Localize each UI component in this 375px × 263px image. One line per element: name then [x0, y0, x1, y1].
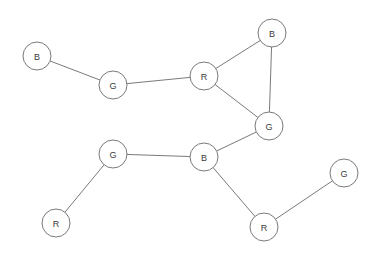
edge-b-top-left-to-g-upper-left: [50, 61, 100, 80]
node-b-top-left[interactable]: B: [23, 42, 51, 70]
node-g-middle-left-label: G: [109, 150, 116, 160]
graph-svg: BGRBGGBRRG: [0, 0, 375, 263]
edge-layer: [50, 40, 332, 219]
edge-r-upper-center-to-g-center-right: [215, 85, 258, 118]
node-layer: BGRBGGBRRG: [23, 19, 358, 241]
node-r-upper-center-label: R: [201, 72, 208, 82]
node-r-bottom-left[interactable]: R: [42, 209, 70, 237]
node-g-upper-left[interactable]: G: [99, 71, 127, 99]
edge-b-middle-center-to-r-bottom-right: [213, 168, 255, 217]
edge-r-bottom-right-to-g-far-right: [276, 181, 333, 219]
node-r-bottom-right-label: R: [261, 223, 268, 233]
node-r-bottom-right[interactable]: R: [250, 213, 278, 241]
edge-r-upper-center-to-b-top-right: [216, 40, 260, 68]
node-g-center-right-label: G: [265, 122, 272, 132]
edge-g-center-right-to-b-middle-center: [217, 132, 257, 151]
node-g-center-right[interactable]: G: [255, 112, 283, 140]
node-g-upper-left-label: G: [109, 81, 116, 91]
edge-g-upper-left-to-r-upper-center: [127, 77, 190, 83]
graph-canvas: BGRBGGBRRG: [0, 0, 375, 263]
node-b-middle-center-label: B: [201, 153, 207, 163]
node-g-far-right-label: G: [340, 169, 347, 179]
node-b-top-right-label: B: [269, 29, 275, 39]
edge-g-middle-left-to-b-middle-center: [127, 154, 190, 156]
node-r-bottom-left-label: R: [53, 219, 60, 229]
node-b-top-right[interactable]: B: [258, 19, 286, 47]
edge-b-top-right-to-g-center-right: [269, 47, 271, 112]
node-g-far-right[interactable]: G: [330, 159, 358, 187]
node-b-middle-center[interactable]: B: [190, 143, 218, 171]
node-g-middle-left[interactable]: G: [99, 140, 127, 168]
node-r-upper-center[interactable]: R: [190, 62, 218, 90]
node-b-top-left-label: B: [34, 52, 40, 62]
edge-g-middle-left-to-r-bottom-left: [65, 165, 104, 212]
